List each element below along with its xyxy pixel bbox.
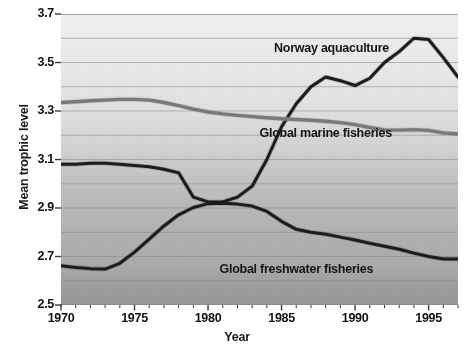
series-label-2: Global marine fisheries — [259, 126, 392, 140]
x-tick-label: 1980 — [178, 311, 238, 325]
series-label-1: Norway aquaculture — [274, 41, 389, 55]
x-tick-label: 1985 — [252, 311, 312, 325]
chart-figure: Mean trophic level Year 3.73.53.33.12.92… — [0, 0, 474, 353]
x-axis-title: Year — [0, 330, 474, 344]
series-label-3: Global freshwater fisheries — [219, 262, 373, 276]
y-tick-label: 2.5 — [14, 297, 54, 311]
y-tick-label: 3.5 — [14, 55, 54, 69]
y-tick-label: 3.1 — [14, 152, 54, 166]
x-tick-label: 1975 — [105, 311, 165, 325]
x-tick-label: 1970 — [31, 311, 91, 325]
y-tick-label: 3.3 — [14, 103, 54, 117]
y-tick-label: 2.9 — [14, 200, 54, 214]
plot-area: Norway aquacultureGlobal marine fisherie… — [61, 14, 458, 305]
y-tick-label: 2.7 — [14, 249, 54, 263]
x-tick-label: 1990 — [325, 311, 385, 325]
y-tick-label: 3.7 — [14, 6, 54, 20]
x-tick-label: 1995 — [399, 311, 459, 325]
